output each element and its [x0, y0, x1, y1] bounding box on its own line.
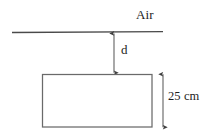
diagram-canvas: [0, 0, 219, 137]
optics-diagram-figure: Air d 25 cm: [0, 0, 219, 137]
air-label: Air: [136, 8, 154, 21]
height-label: 25 cm: [168, 90, 199, 103]
interface-line: [12, 32, 163, 33]
block-rectangle: [43, 75, 153, 128]
gap-label: d: [121, 43, 128, 56]
